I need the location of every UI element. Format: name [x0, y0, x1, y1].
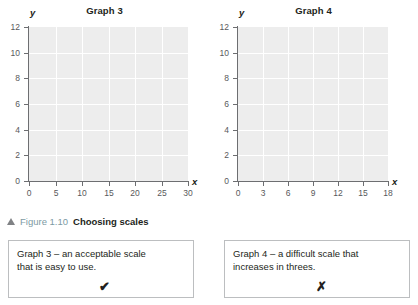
note-box-graph-3: Graph 3 – an acceptable scale that is ea… [8, 240, 194, 298]
gridline-horizontal [238, 155, 388, 156]
x-tick-label: 10 [73, 188, 91, 198]
y-tick [233, 78, 237, 79]
x-tick-label: 20 [126, 188, 144, 198]
triangle-up-icon [7, 218, 15, 225]
y-tick [24, 104, 28, 105]
gridline-horizontal [29, 104, 188, 105]
plot-area-graph-4 [238, 27, 388, 181]
x-tick [288, 182, 289, 186]
y-tick-label: 8 [4, 73, 20, 83]
y-axis-line-graph-4 [237, 26, 238, 182]
y-tick-label: 0 [4, 176, 20, 186]
x-axis-label-graph-3: x [192, 176, 197, 187]
gridline-horizontal [238, 104, 388, 105]
x-tick [82, 182, 83, 186]
y-tick [233, 53, 237, 54]
note-text-graph-3: Graph 3 – an acceptable scale that is ea… [17, 247, 185, 273]
figure-choosing-scales: Graph 3 y x 024681012051015202530 Graph … [0, 0, 418, 305]
y-tick [233, 27, 237, 28]
x-axis-label-graph-4: x [392, 176, 397, 187]
note-line-2: that is easy to use. [17, 260, 185, 273]
y-axis-label-graph-3: y [30, 7, 35, 18]
y-tick [233, 181, 237, 182]
y-tick [24, 27, 28, 28]
x-tick-label: 3 [254, 188, 272, 198]
x-tick-label: 15 [100, 188, 118, 198]
y-tick [24, 78, 28, 79]
gridline-horizontal [29, 130, 188, 131]
graphs-row: Graph 3 y x 024681012051015202530 Graph … [0, 0, 418, 205]
gridline-horizontal [238, 130, 388, 131]
graph-panel-graph-3: Graph 3 y x 024681012051015202530 [0, 0, 209, 205]
y-tick-label: 6 [213, 99, 229, 109]
figure-number: Figure 1.10 [20, 216, 68, 227]
gridline-horizontal [29, 53, 188, 54]
gridline-vertical [388, 27, 389, 181]
y-tick [24, 181, 28, 182]
x-tick-label: 5 [47, 188, 65, 198]
y-tick-label: 12 [4, 22, 20, 32]
figure-title: Choosing scales [73, 216, 149, 227]
plot-area-graph-3 [29, 27, 188, 181]
x-tick-label: 15 [354, 188, 372, 198]
note-line-1: Graph 3 – an acceptable scale [17, 247, 185, 260]
x-tick [238, 182, 239, 186]
y-tick-label: 10 [213, 48, 229, 58]
x-tick [313, 182, 314, 186]
y-tick-label: 4 [213, 125, 229, 135]
gridline-horizontal [238, 78, 388, 79]
x-tick [135, 182, 136, 186]
y-tick [24, 53, 28, 54]
y-tick-label: 2 [4, 150, 20, 160]
x-tick [388, 182, 389, 186]
x-tick [363, 182, 364, 186]
x-tick-label: 30 [179, 188, 197, 198]
y-tick-label: 12 [213, 22, 229, 32]
x-tick-label: 18 [379, 188, 397, 198]
x-tick-label: 0 [20, 188, 38, 198]
note-text-graph-4: Graph 4 – a difficult scale that increas… [233, 247, 401, 273]
note-line-2: increases in threes. [233, 260, 401, 273]
y-tick-label: 2 [213, 150, 229, 160]
x-tick [162, 182, 163, 186]
y-tick [233, 155, 237, 156]
gridline-horizontal [29, 155, 188, 156]
x-tick-label: 6 [279, 188, 297, 198]
y-tick-label: 0 [213, 176, 229, 186]
y-tick [24, 130, 28, 131]
x-tick [29, 182, 30, 186]
x-tick-label: 12 [329, 188, 347, 198]
y-axis-line-graph-3 [28, 26, 29, 182]
notes-row: Graph 3 – an acceptable scale that is ea… [0, 240, 418, 300]
check-mark-icon: ✔ [9, 280, 193, 293]
x-tick [56, 182, 57, 186]
y-axis-label-graph-4: y [239, 7, 244, 18]
graph-panel-graph-4: Graph 4 y x 0246810120369121518 [209, 0, 418, 205]
x-tick [188, 182, 189, 186]
y-tick [24, 155, 28, 156]
cross-mark-icon: ✗ [225, 280, 409, 293]
y-tick-label: 10 [4, 48, 20, 58]
x-tick [263, 182, 264, 186]
x-tick-label: 25 [153, 188, 171, 198]
y-tick [233, 130, 237, 131]
y-tick [233, 104, 237, 105]
gridline-vertical [188, 27, 189, 181]
note-line-1: Graph 4 – a difficult scale that [233, 247, 401, 260]
x-tick-label: 9 [304, 188, 322, 198]
y-tick-label: 4 [4, 125, 20, 135]
y-tick-label: 6 [4, 99, 20, 109]
gridline-horizontal [29, 78, 188, 79]
x-tick [109, 182, 110, 186]
x-tick [338, 182, 339, 186]
gridline-horizontal [238, 53, 388, 54]
figure-caption: Figure 1.10 Choosing scales [7, 213, 149, 229]
y-tick-label: 8 [213, 73, 229, 83]
x-tick-label: 0 [229, 188, 247, 198]
note-box-graph-4: Graph 4 – a difficult scale that increas… [224, 240, 410, 298]
